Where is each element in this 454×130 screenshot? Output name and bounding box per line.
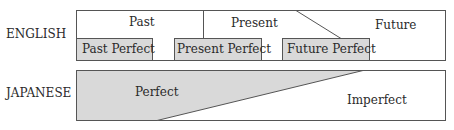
imperfect-label: Imperfect [347, 93, 407, 107]
japanese-label: JAPANESE [6, 86, 71, 100]
present-perfect-label: Present Perfect [177, 42, 271, 56]
tense-future: Future [375, 18, 416, 32]
future-perfect-label: Future Perfect [287, 42, 376, 56]
perfect-label: Perfect [135, 85, 178, 99]
past-perfect-label: Past Perfect [82, 42, 155, 56]
english-label: ENGLISH [6, 27, 66, 41]
tense-present: Present [231, 16, 278, 30]
tense-past: Past [129, 15, 155, 29]
